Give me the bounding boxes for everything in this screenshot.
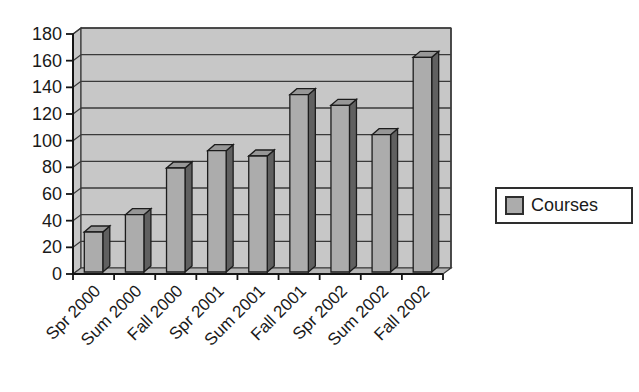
bar-fall-2002: [413, 51, 439, 272]
bar-front-face: [167, 168, 186, 272]
y-axis-tick-label: 20: [42, 237, 62, 257]
chart-canvas: 020406080100120140160180Spr 2000Sum 2000…: [0, 0, 639, 392]
plot-side-wall: [73, 28, 81, 274]
legend-series-marker-icon: [505, 196, 524, 215]
bar-side-face: [308, 89, 315, 272]
bar-front-face: [372, 135, 391, 272]
bar-side-face: [391, 129, 398, 272]
bar-front-face: [84, 232, 103, 272]
bar-front-face: [331, 105, 350, 272]
bar-fall-2000: [167, 162, 193, 272]
bar-side-face: [144, 209, 151, 272]
y-axis-tick-label: 120: [32, 104, 62, 124]
bar-sum-2001: [249, 150, 275, 272]
bar-side-face: [267, 150, 274, 272]
bar-front-face: [249, 156, 268, 272]
bar-front-face: [290, 95, 309, 272]
y-axis-tick-label: 160: [32, 51, 62, 71]
y-axis-tick-label: 60: [42, 184, 62, 204]
bar-front-face: [413, 57, 432, 272]
bar-front-face: [125, 215, 144, 272]
bar-front-face: [208, 151, 227, 272]
bar-side-face: [185, 162, 192, 272]
y-axis-tick-label: 140: [32, 77, 62, 97]
bar-spr-2000: [84, 226, 110, 272]
bar-sum-2002: [372, 129, 398, 272]
legend-series-label: Courses: [531, 195, 598, 216]
legend: Courses: [495, 187, 633, 224]
y-axis-tick-label: 40: [42, 211, 62, 231]
y-axis-tick-label: 180: [32, 24, 62, 44]
y-axis-tick-label: 100: [32, 131, 62, 151]
y-axis-tick-label: 0: [52, 264, 62, 284]
bar-spr-2002: [331, 99, 357, 272]
bar-spr-2001: [208, 145, 234, 272]
bar-side-face: [432, 51, 439, 272]
bar-side-face: [103, 226, 110, 272]
bar-sum-2000: [125, 209, 151, 272]
bar-fall-2001: [290, 89, 316, 272]
y-axis-tick-label: 80: [42, 157, 62, 177]
bar-side-face: [226, 145, 233, 272]
bar-side-face: [349, 99, 356, 272]
